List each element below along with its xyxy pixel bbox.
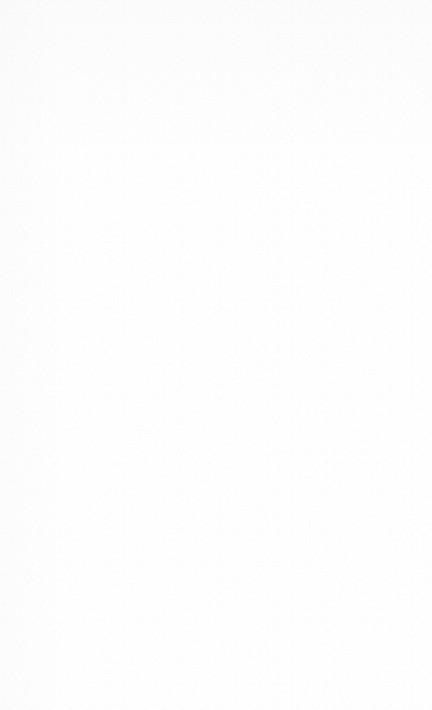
page-content-area [0, 0, 432, 710]
page-viewport [0, 0, 432, 710]
